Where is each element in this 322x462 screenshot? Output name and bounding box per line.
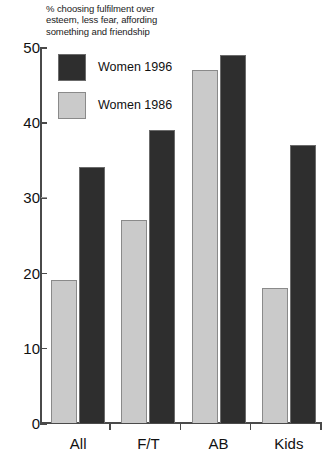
legend-label: Women 1996 — [98, 60, 172, 74]
category-label-ab: AB — [209, 435, 229, 452]
bar — [192, 70, 218, 423]
x-axis-tick — [180, 422, 182, 430]
bar-chart: % choosing fulfilment over esteem, less … — [0, 0, 322, 462]
category-label-all: All — [70, 435, 87, 452]
y-axis-tick-label: 20 — [6, 264, 40, 281]
chart-title: % choosing fulfilment over esteem, less … — [46, 3, 256, 37]
bar — [51, 280, 77, 423]
bar — [220, 55, 246, 423]
bar — [262, 288, 288, 423]
category-label-kids: Kids — [274, 435, 303, 452]
category-label-f-t: F/T — [137, 435, 160, 452]
y-axis-tick-label: 40 — [6, 114, 40, 131]
x-axis-tick — [109, 422, 111, 430]
bar — [149, 130, 175, 423]
bar — [79, 167, 105, 423]
legend-label: Women 1986 — [98, 98, 172, 112]
y-axis-tick-label: 30 — [6, 189, 40, 206]
x-axis-tick — [320, 422, 322, 430]
legend-swatch-icon — [58, 92, 86, 119]
bar — [121, 220, 147, 423]
y-axis-tick-label: 0 — [6, 415, 40, 432]
y-axis-tick-label: 10 — [6, 339, 40, 356]
legend-swatch-icon — [58, 54, 86, 81]
bar — [290, 145, 316, 423]
y-axis-tick-label: 50 — [6, 39, 40, 56]
x-axis-tick — [250, 422, 252, 430]
y-axis-tick — [40, 423, 47, 425]
